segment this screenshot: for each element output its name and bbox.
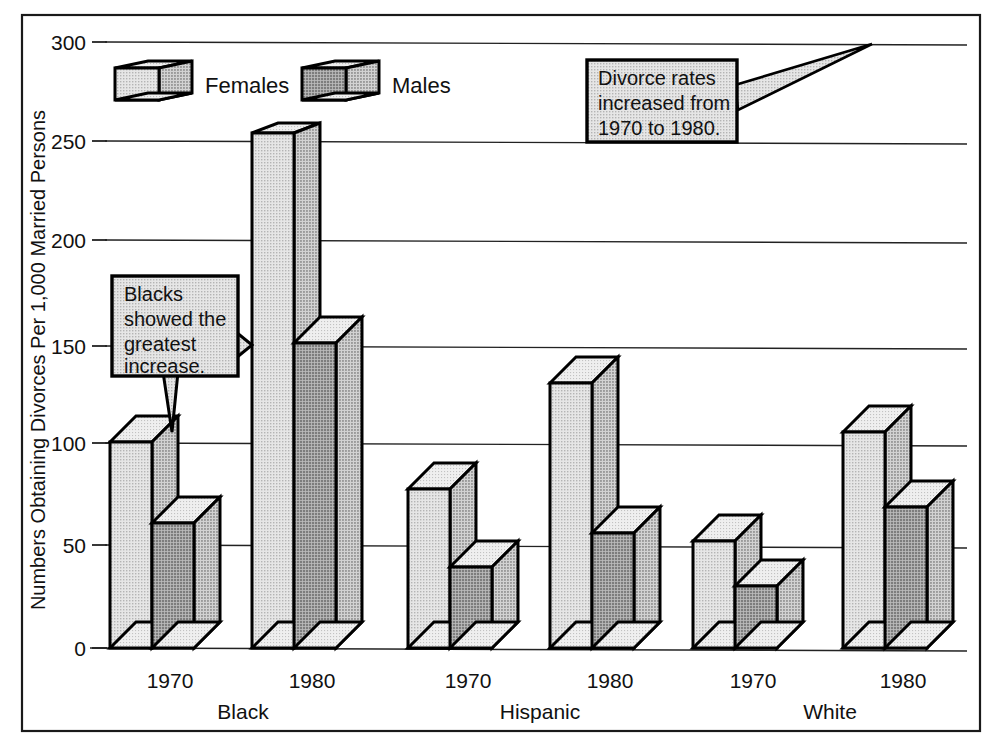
x-label-black-1970: 1970 [147, 669, 194, 692]
y-tick-0: 0 [74, 637, 86, 660]
x-label-white-1980: 1980 [880, 669, 927, 692]
bar-group-black-1980 [252, 123, 362, 648]
x-label-hispanic-1980: 1980 [587, 669, 634, 692]
gridline-250 [105, 141, 967, 144]
y-tick-250: 250 [51, 130, 86, 153]
legend-swatch-males[interactable] [302, 61, 379, 100]
y-tick-100: 100 [51, 432, 86, 455]
bar-white-1980-males[interactable] [885, 481, 953, 648]
callout-blacks-line-4: increase. [124, 355, 205, 377]
group-label-hispanic: Hispanic [500, 700, 581, 723]
gridline-300 [105, 42, 967, 45]
divorce-rates-bar-chart: 300 250 200 150 100 50 0 Numbers Obtaini… [0, 0, 994, 746]
y-tick-marks [92, 42, 107, 648]
x-label-white-1970: 1970 [730, 669, 777, 692]
callout-blacks-line-1: Blacks [124, 283, 183, 305]
bar-group-hispanic-1980 [550, 357, 660, 648]
y-tick-50: 50 [63, 534, 86, 557]
y-axis-title: Numbers Obtaining Divorces Per 1,000 Mar… [27, 110, 49, 610]
group-label-white: White [803, 700, 857, 723]
legend-label-males: Males [392, 73, 451, 98]
bar-black-1970-males[interactable] [152, 497, 220, 648]
bar-group-white-1980 [843, 406, 953, 648]
callout-blacks-greatest-increase[interactable]: Blacks showed the greatest increase. [112, 276, 252, 432]
y-tick-150: 150 [51, 335, 86, 358]
group-label-black: Black [217, 700, 269, 723]
legend-label-females: Females [205, 73, 289, 98]
callout-blacks-line-2: showed the [124, 308, 226, 330]
y-tick-300: 300 [51, 31, 86, 54]
bar-group-black-1970 [110, 416, 220, 648]
y-tick-200: 200 [51, 229, 86, 252]
x-label-black-1980: 1980 [289, 669, 336, 692]
bar-black-1980-males[interactable] [294, 317, 362, 648]
bar-group-white-1970 [693, 515, 803, 648]
gridline-50 [105, 545, 967, 548]
callout-divorce-line-1: Divorce rates [598, 67, 716, 89]
callout-divorce-line-3: 1970 to 1980. [598, 117, 720, 139]
x-label-hispanic-1970: 1970 [445, 669, 492, 692]
x-axis-group-labels: Black Hispanic White [217, 700, 857, 723]
y-axis-tick-labels: 300 250 200 150 100 50 0 [51, 31, 86, 660]
x-axis-year-labels: 1970 1980 1970 1980 1970 1980 [147, 669, 927, 692]
chart-figure: 300 250 200 150 100 50 0 Numbers Obtaini… [0, 0, 994, 746]
callout-divorce-line-2: increased from [598, 92, 730, 114]
gridline-0-baseline [90, 648, 967, 651]
legend-swatch-females[interactable] [115, 61, 192, 100]
gridline-100 [105, 443, 967, 446]
legend: Females Males [115, 61, 451, 100]
callout-divorce-tail [735, 44, 872, 110]
bar-hispanic-1980-males[interactable] [592, 507, 660, 648]
bar-group-hispanic-1970 [408, 463, 518, 648]
gridline-200 [105, 240, 967, 243]
callout-divorce-rates-increased[interactable]: Divorce rates increased from 1970 to 198… [587, 44, 872, 142]
bar-hispanic-1970-males[interactable] [450, 541, 518, 648]
callout-blacks-line-3: greatest [124, 333, 197, 355]
